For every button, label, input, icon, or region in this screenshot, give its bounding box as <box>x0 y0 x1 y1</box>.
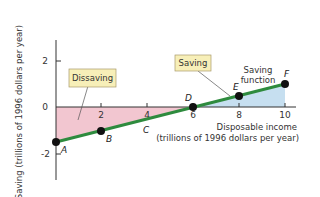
point-label-d: D <box>185 93 192 103</box>
y-tick-label-0: 0 <box>42 102 48 112</box>
point-label-a: A <box>60 145 67 155</box>
y-tick-label-2: 2 <box>42 56 48 66</box>
x-tick-label-8: 8 <box>236 110 242 120</box>
x-tick-label-2: 2 <box>98 110 104 120</box>
point-label-c: C <box>143 125 150 135</box>
y-tick-label-neg2: -2 <box>41 149 50 159</box>
x-tick-label-6: 6 <box>190 110 196 120</box>
x-axis-title-line2: (trillions of 1996 dollars per year) <box>156 133 299 143</box>
point-label-f: F <box>284 69 290 79</box>
dissaving-annotation: Dissaving <box>72 73 113 83</box>
saving-leader-line <box>198 71 230 96</box>
point-f <box>281 80 289 88</box>
point-d <box>189 103 197 111</box>
saving-annotation: Saving <box>179 58 208 68</box>
saving-function-label-line1: Saving <box>244 65 273 75</box>
point-label-e: E <box>233 82 239 92</box>
x-tick-label-10: 10 <box>279 110 291 120</box>
saving-function-label-line2: function <box>241 75 276 85</box>
point-b <box>97 127 105 135</box>
y-axis-title: Saving (trillions of 1996 dollars per ye… <box>14 25 24 197</box>
saving-function-chart: 2 0 -2 2 4 6 8 10 A B C D E F Dissaving … <box>0 0 320 197</box>
point-a <box>52 138 60 146</box>
x-axis-title-line1: Disposable income <box>217 122 297 132</box>
point-e <box>235 92 243 100</box>
point-label-b: B <box>106 134 112 144</box>
